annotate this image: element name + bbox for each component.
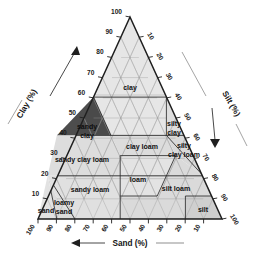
sand-axis-title: Sand (%) xyxy=(112,239,147,248)
label-sandy-clay-line2: clay xyxy=(80,132,94,140)
label-silt: silt xyxy=(198,206,209,213)
clay-tick-20: 20 xyxy=(41,170,49,177)
label-sand: sand xyxy=(38,207,54,214)
label-silty-clay-line1: silty xyxy=(167,120,181,128)
soil-texture-triangle-figure: 100 90 80 70 60 50 40 30 20 10 10 20 30 … xyxy=(0,0,258,258)
label-loam: loam xyxy=(130,176,146,183)
ternary-diagram-svg: 100 90 80 70 60 50 40 30 20 10 10 20 30 … xyxy=(0,0,258,258)
label-clay-loam: clay loam xyxy=(126,143,158,151)
label-sandy-loam: sandy loam xyxy=(71,186,110,194)
label-silty-clay-loam-line1: silty xyxy=(177,142,191,150)
label-loamy-sand-line2: sand xyxy=(56,208,72,215)
clay-tick-60: 60 xyxy=(78,89,86,96)
label-sandy-clay-line1: sandy xyxy=(77,123,97,131)
clay-tick-40: 40 xyxy=(59,129,67,136)
label-sandy-clay-loam: sandy clay loam xyxy=(55,156,109,164)
label-clay: clay xyxy=(123,84,137,92)
clay-tick-50: 50 xyxy=(69,109,77,116)
label-silty-clay-line2: clay xyxy=(167,129,181,137)
clay-tick-10: 10 xyxy=(32,190,40,197)
clay-tick-90: 90 xyxy=(105,28,113,35)
label-silt-loam: silt loam xyxy=(162,185,190,192)
clay-tick-80: 80 xyxy=(96,48,104,55)
clay-tick-100: 100 xyxy=(111,8,122,15)
clay-tick-70: 70 xyxy=(87,69,95,76)
label-silty-clay-loam-line2: clay loam xyxy=(168,151,200,159)
label-loamy-sand-line1: loamy xyxy=(54,199,74,207)
